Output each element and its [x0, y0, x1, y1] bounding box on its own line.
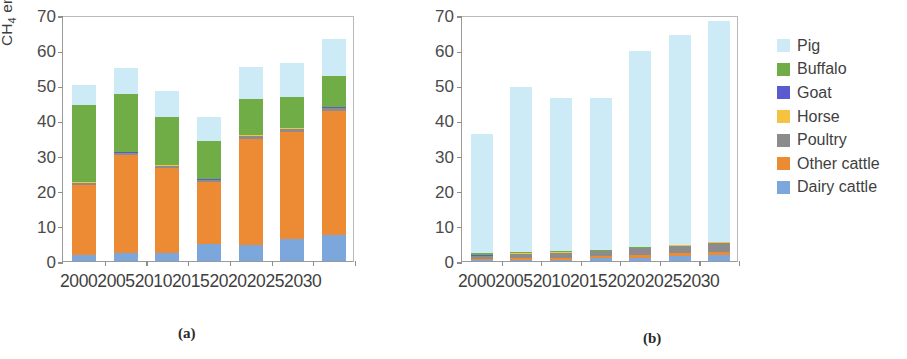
legend-label: Pig: [797, 38, 820, 54]
y-tick-label: 60: [37, 43, 56, 60]
y-axis-label-a: CH4 emissions (kt): [0, 0, 18, 46]
bar-segment-pig: [550, 98, 572, 251]
y-tick-label: 0: [445, 254, 454, 271]
legend-swatch-icon: [777, 157, 790, 170]
plot-area-b: [461, 16, 738, 262]
legend-label: Goat: [797, 85, 832, 101]
legend-label: Poultry: [797, 132, 847, 148]
y-tick-label: 30: [435, 148, 454, 165]
legend-swatch-icon: [777, 63, 790, 76]
bar-segment-buffalo: [72, 105, 96, 183]
x-tick-label: 2000: [60, 271, 97, 291]
bar-2000: [471, 134, 493, 261]
y-axis-tick: [58, 227, 63, 228]
bar-segment-pig: [510, 87, 532, 251]
y-axis-tick: [457, 16, 462, 17]
legend-item-other-cattle: Other cattle: [777, 152, 905, 176]
bar-segment-other-cattle: [155, 168, 179, 253]
bar-segment-buffalo: [197, 141, 221, 179]
x-axis-tick: [541, 261, 542, 266]
bar-segment-pig: [471, 134, 493, 253]
bar-group-a: [63, 17, 353, 261]
y-axis-tick: [457, 227, 462, 228]
y-axis-tick: [58, 262, 63, 263]
x-tick-label: 2030: [682, 271, 719, 291]
x-axis-tick: [188, 261, 189, 266]
figure-root: CH4 emissions (kt) 010203040506070 20002…: [0, 0, 907, 359]
legend-item-dairy-cattle: Dairy cattle: [777, 176, 905, 200]
bar-segment-other-cattle: [72, 185, 96, 256]
x-axis-tick: [230, 261, 231, 266]
bar-segment-buffalo: [280, 97, 304, 128]
bar-segment-pig: [239, 67, 263, 99]
subfigure-caption-a: (a): [178, 325, 196, 342]
legend-swatch-icon: [777, 86, 790, 99]
bar-segment-dairy-cattle: [590, 258, 612, 261]
legend-swatch-icon: [777, 134, 790, 147]
bar-segment-dairy-cattle: [322, 235, 346, 261]
bar-2005: [510, 87, 532, 261]
x-tick-label: 2025: [645, 271, 682, 291]
y-axis-tick: [457, 157, 462, 158]
x-tick-label: 2020: [607, 271, 644, 291]
bar-2025: [280, 63, 304, 261]
x-axis-tick: [660, 261, 661, 266]
bar-segment-pig: [155, 91, 179, 117]
bar-segment-dairy-cattle: [114, 253, 138, 261]
bar-segment-pig: [322, 39, 346, 76]
bar-2020: [629, 51, 651, 261]
bar-segment-buffalo: [114, 94, 138, 152]
bar-segment-poultry: [669, 246, 691, 253]
x-axis-tick: [739, 261, 740, 266]
bar-2015: [590, 98, 612, 261]
bar-2030: [708, 21, 730, 261]
legend-label: Buffalo: [797, 61, 847, 77]
y-axis-tick: [58, 122, 63, 123]
legend-label: Dairy cattle: [797, 179, 877, 195]
bar-segment-other-cattle: [114, 155, 138, 254]
x-axis-tick: [620, 261, 621, 266]
y-axis-tick: [457, 52, 462, 53]
y-tick-label: 20: [435, 183, 454, 200]
bar-2010: [550, 98, 572, 261]
bar-segment-dairy-cattle: [197, 244, 221, 261]
bar-segment-dairy-cattle: [669, 256, 691, 261]
y-tick-label: 10: [435, 218, 454, 235]
x-tick-label: 2015: [570, 271, 607, 291]
x-axis-tick: [272, 261, 273, 266]
bar-segment-buffalo: [155, 117, 179, 166]
legend: PigBuffaloGoatHorsePoultryOther cattleDa…: [777, 34, 905, 199]
subfigure-caption-b: (b): [643, 330, 661, 347]
y-tick-label: 40: [37, 113, 56, 130]
bar-2020: [239, 67, 263, 261]
y-axis-tick-labels-b: 010203040506070: [416, 0, 454, 359]
bar-segment-other-cattle: [280, 132, 304, 240]
x-axis-tick: [355, 261, 356, 266]
x-tick-label: 2010: [135, 271, 172, 291]
x-tick-label: 2000: [458, 271, 495, 291]
bar-segment-pig: [280, 63, 304, 97]
bar-segment-other-cattle: [239, 139, 263, 245]
bar-segment-dairy-cattle: [155, 253, 179, 261]
bar-segment-dairy-cattle: [550, 260, 572, 261]
legend-item-horse: Horse: [777, 105, 905, 129]
bar-group-b: [462, 17, 737, 261]
x-tick-label: 2005: [97, 271, 134, 291]
bar-segment-pig: [590, 98, 612, 249]
bar-segment-dairy-cattle: [708, 255, 730, 261]
y-tick-label: 50: [37, 78, 56, 95]
bar-segment-buffalo: [239, 99, 263, 136]
bar-2000: [72, 85, 96, 261]
bar-2005: [114, 68, 138, 261]
x-axis-tick: [313, 261, 314, 266]
y-tick-label: 40: [435, 113, 454, 130]
bar-segment-pig: [708, 21, 730, 241]
y-axis-tick-labels-a: 010203040506070: [18, 0, 56, 359]
x-axis-tick-labels-a: 2000200520102015202020252030: [60, 271, 321, 292]
bar-segment-buffalo: [322, 76, 346, 107]
x-axis-tick: [146, 261, 147, 266]
x-tick-label: 2030: [284, 271, 321, 291]
y-axis-tick: [58, 157, 63, 158]
y-axis-tick: [457, 262, 462, 263]
bar-2015: [197, 117, 221, 261]
